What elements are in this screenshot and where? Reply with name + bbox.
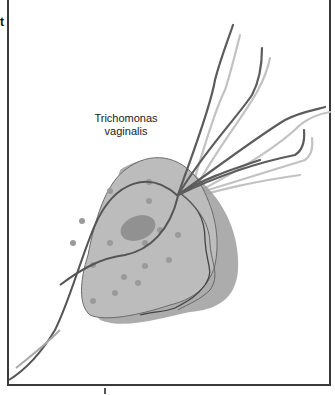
anterior-flagella [178,25,325,195]
axostyle-shadow [16,330,60,368]
label-line-1: Trichomonas [86,112,166,125]
bottom-tick-mark [104,388,106,394]
organism-label: Trichomonas vaginalis [86,112,166,138]
trichomonas-illustration [0,0,335,395]
label-line-2: vaginalis [86,125,166,138]
flagella-shadows [190,35,330,198]
